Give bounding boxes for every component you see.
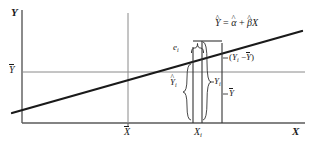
regression-equation: ^Y = ^α + ^βX [215,18,258,28]
hat-accent: ^ [215,14,219,23]
subscript-i: i [219,81,221,87]
overbar [9,64,14,65]
x-axis-label: X [292,126,299,137]
overbar [124,126,129,127]
observed-brace [203,42,211,120]
plus-sign: + [239,17,245,28]
regression-decomposition-figure: Y X Y X Xi ^Y = ^α + ^βX ei (Yi −Y) Yi ^… [0,0,311,148]
hat-accent: ^ [232,14,236,23]
total-deviation-label: (Yi −Y) [229,53,254,63]
subscript-i: i [200,131,202,138]
y-axis-label: Y [11,7,18,18]
subscript-i: i [177,47,179,53]
overbar [229,88,233,89]
fitted-value-label: ^Yi [170,78,177,88]
hat-accent: ^ [170,74,174,82]
residual-label: ei [173,43,179,53]
hat-accent: ^ [247,14,251,23]
overbar [246,52,250,53]
equals-sign: = [223,17,229,28]
subscript-i: i [175,82,177,88]
x-mean-tick-label: X [124,127,130,137]
figure-canvas [0,0,311,148]
y-mean-tick-label: Y [9,65,15,75]
mean-value-label: Y [229,89,234,98]
observed-value-label: Yi [214,77,221,87]
x-point-tick-label: Xi [194,127,202,139]
